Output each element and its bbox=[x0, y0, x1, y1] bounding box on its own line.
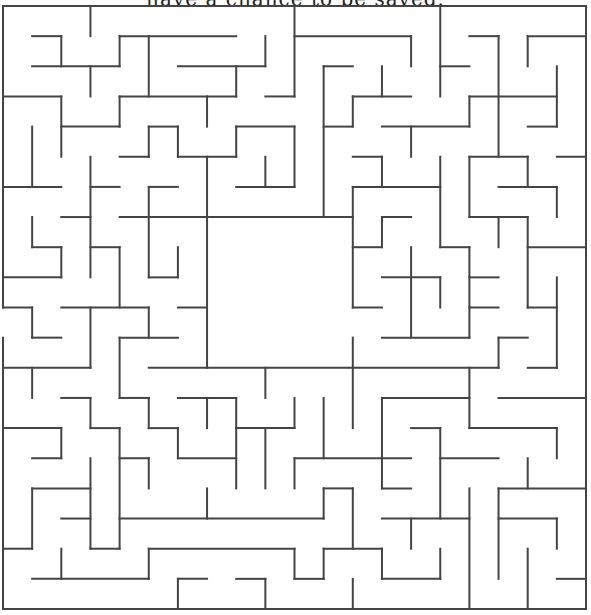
maze-board bbox=[0, 0, 591, 615]
